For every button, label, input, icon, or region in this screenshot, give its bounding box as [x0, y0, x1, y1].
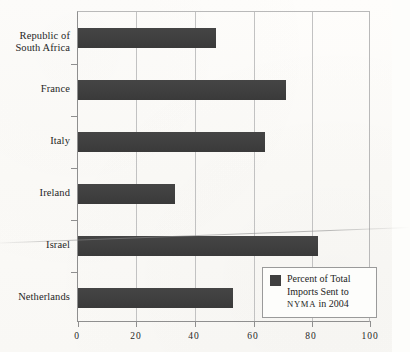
legend-label-acronym: NYMA: [287, 299, 316, 309]
y-axis-tick: [71, 220, 78, 221]
gridline-60: [254, 12, 255, 321]
x-axis-tick-0: [78, 321, 79, 327]
bar-republic-of-south-africa: [78, 28, 216, 48]
bar-israel: [78, 236, 318, 256]
x-axis-tick-label-80: 80: [305, 331, 317, 341]
gridline-40: [195, 12, 196, 321]
x-axis-tick-label-60: 60: [247, 331, 259, 341]
y-axis-label-line: South Africa: [0, 42, 70, 54]
y-axis-label-line: Italy: [0, 135, 70, 147]
chart-legend: Percent of Total Imports Sent to NYMA in…: [262, 267, 377, 318]
bar-netherlands: [78, 288, 233, 308]
x-axis-tick-60: [254, 321, 255, 327]
y-axis-label-netherlands: Netherlands: [0, 291, 70, 303]
bar-ireland: [78, 184, 175, 204]
legend-label-line2: Imports Sent to: [287, 286, 351, 299]
y-axis-label-line: Netherlands: [0, 291, 70, 303]
y-axis-label-republic-of-south-africa: Republic of South Africa: [0, 30, 70, 54]
x-axis-tick-label-0: 0: [74, 331, 80, 341]
y-axis-label-france: France: [0, 83, 70, 95]
y-axis-label-israel: Israel: [0, 239, 70, 251]
y-axis-label-ireland: Ireland: [0, 187, 70, 199]
x-axis-tick-label-40: 40: [188, 331, 200, 341]
y-axis-tick: [71, 272, 78, 273]
bar-italy: [78, 132, 265, 152]
y-axis-tick: [71, 168, 78, 169]
y-axis-label-italy: Italy: [0, 135, 70, 147]
legend-label-line1: Percent of Total: [287, 273, 351, 286]
gridline-20: [136, 12, 137, 321]
x-axis-tick-label-100: 100: [361, 331, 378, 341]
y-axis-label-line: Israel: [0, 239, 70, 251]
bar-france: [78, 80, 286, 100]
x-axis-tick-100: [370, 321, 371, 327]
x-axis-tick-label-20: 20: [130, 331, 142, 341]
y-axis-label-line: France: [0, 83, 70, 95]
y-axis-label-line: Republic of: [0, 30, 70, 42]
y-axis-tick: [71, 64, 78, 65]
x-axis-tick-20: [136, 321, 137, 327]
y-axis-label-line: Ireland: [0, 187, 70, 199]
y-axis-tick: [71, 116, 78, 117]
legend-label: Percent of Total Imports Sent to NYMA in…: [287, 273, 351, 311]
x-axis-tick-40: [195, 321, 196, 327]
x-axis-tick-80: [312, 321, 313, 327]
legend-label-line3: NYMA in 2004: [287, 298, 351, 311]
legend-label-line3-rest: in 2004: [316, 298, 349, 309]
legend-swatch-icon: [270, 275, 281, 286]
